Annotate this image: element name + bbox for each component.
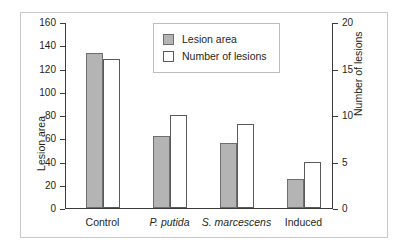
legend-swatch-number-of-lesions: [163, 51, 174, 62]
right-axis-title: Number of lesions: [354, 31, 365, 116]
right-tick: [333, 163, 338, 164]
category-label: Induced: [285, 217, 322, 228]
left-tick: [60, 139, 65, 140]
left-tick: [60, 116, 65, 117]
category-label: P. putida: [149, 217, 189, 228]
right-tick: [333, 116, 338, 117]
legend-swatch-lesion-area: [163, 34, 174, 45]
x-axis-spine: [65, 208, 333, 209]
legend-item: Number of lesions: [163, 48, 267, 65]
right-tick: [333, 70, 338, 71]
bar-lesion-area: [287, 179, 304, 208]
right-tick-label: 0: [342, 204, 348, 214]
left-tick: [60, 186, 65, 187]
left-tick-label: 60: [45, 134, 56, 144]
figure-panel: Lesion area Number of lesions 0204060801…: [20, 12, 388, 238]
bar-number-of-lesions: [237, 124, 254, 208]
bar-lesion-area: [86, 53, 103, 208]
left-tick-label: 100: [39, 88, 56, 98]
left-tick-label: 20: [45, 181, 56, 191]
right-tick-label: 15: [342, 65, 353, 75]
left-tick-label: 160: [39, 18, 56, 28]
legend-item: Lesion area: [163, 31, 267, 48]
left-tick-label: 40: [45, 158, 56, 168]
legend-label: Number of lesions: [182, 51, 267, 62]
bar-group: Induced: [287, 22, 321, 208]
bar-lesion-area: [153, 136, 170, 208]
category-label: Control: [86, 217, 120, 228]
left-tick: [60, 209, 65, 210]
left-tick: [60, 46, 65, 47]
left-tick: [60, 23, 65, 24]
right-tick: [333, 23, 338, 24]
chart-legend: Lesion area Number of lesions: [153, 23, 280, 73]
bar-number-of-lesions: [170, 115, 187, 208]
left-tick: [60, 93, 65, 94]
legend-label: Lesion area: [182, 34, 237, 45]
left-tick: [60, 163, 65, 164]
bar-group: Control: [86, 22, 120, 208]
left-tick-label: 80: [45, 111, 56, 121]
bar-number-of-lesions: [304, 162, 321, 209]
right-tick-label: 20: [342, 18, 353, 28]
right-tick: [333, 209, 338, 210]
left-axis-spine: [65, 23, 66, 209]
category-label: S. marcescens: [202, 217, 271, 228]
bar-lesion-area: [220, 143, 237, 208]
left-tick-label: 140: [39, 41, 56, 51]
bar-number-of-lesions: [103, 59, 120, 208]
left-tick: [60, 70, 65, 71]
right-tick-label: 5: [342, 158, 348, 168]
left-tick-label: 120: [39, 65, 56, 75]
right-tick-label: 10: [342, 111, 353, 121]
left-tick-label: 0: [50, 204, 56, 214]
